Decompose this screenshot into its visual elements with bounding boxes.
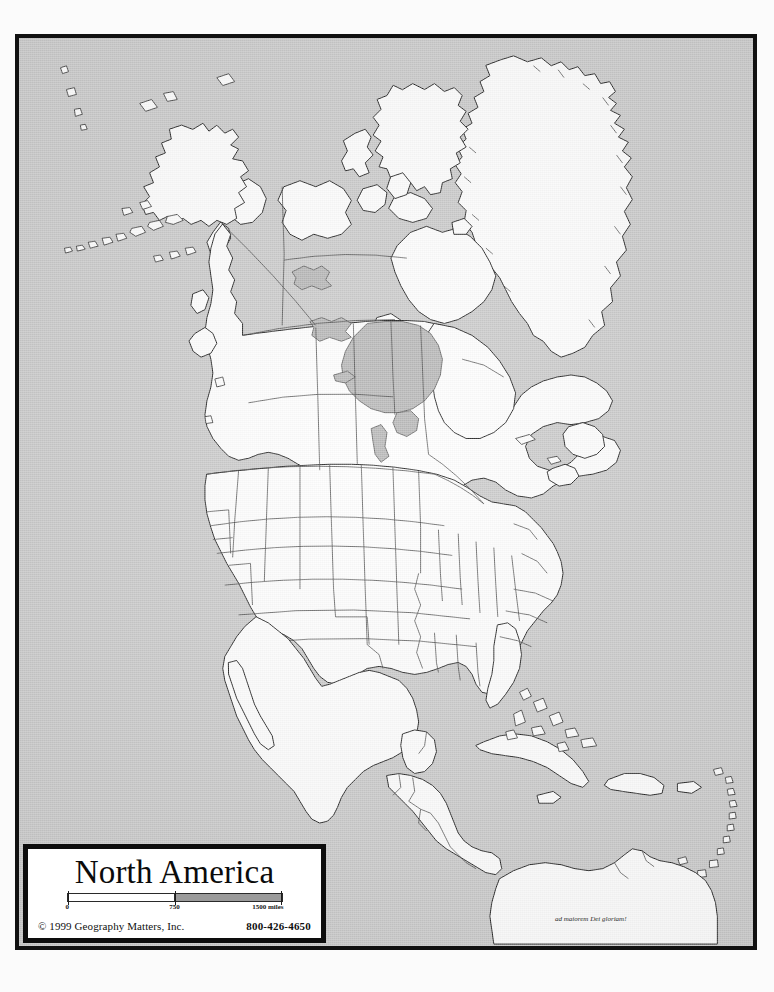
scale-bar: [67, 893, 283, 902]
scale-label-0: 0: [66, 903, 70, 911]
island-queen-charlotte: [191, 290, 209, 314]
scale-bar-labels: 0 750 1500 miles: [67, 902, 283, 914]
scale-label-1500-miles: 1500 miles: [252, 903, 283, 911]
island-victoria: [278, 181, 351, 240]
map-title: North America: [36, 853, 313, 891]
island-prince-of-wales: [357, 185, 387, 213]
scale-segment-0-750: [68, 894, 175, 901]
landmass-alaska: [142, 123, 249, 226]
island-ellesmere: [373, 84, 468, 195]
island-prince-edward: [547, 456, 561, 464]
phone-number: 800-426-4650: [246, 920, 311, 932]
peninsula-yucatan: [401, 730, 437, 774]
island-hispaniola: [605, 774, 664, 796]
water-great-bear-lake: [292, 266, 332, 290]
cartouche-credits: © 1999 Geography Matters, Inc. 800-426-4…: [36, 920, 313, 932]
map-frame: North America 0 750 1500 miles: [15, 34, 757, 950]
scale-label-750: 750: [169, 903, 180, 911]
island-puerto-rico: [678, 781, 702, 793]
map-surface[interactable]: North America 0 750 1500 miles: [19, 38, 753, 946]
north-america-map-graphic: [19, 38, 753, 946]
scale-segment-750-1500: [174, 894, 282, 901]
island-axel-heiberg: [341, 129, 373, 177]
island-cuba: [476, 734, 589, 788]
motto-text: ad maiorem Dei gloriam!: [555, 915, 626, 923]
island-newfoundland: [563, 423, 605, 459]
title-cartouche: North America 0 750 1500 miles: [23, 844, 326, 943]
copyright-notice: © 1999 Geography Matters, Inc.: [38, 920, 184, 932]
region-central-america: [387, 774, 502, 875]
arctic-islets-northwest: [61, 66, 235, 130]
island-jamaica: [537, 791, 561, 803]
scale-bar-widget: 0 750 1500 miles: [67, 893, 283, 914]
map-page: North America 0 750 1500 miles: [0, 0, 774, 992]
